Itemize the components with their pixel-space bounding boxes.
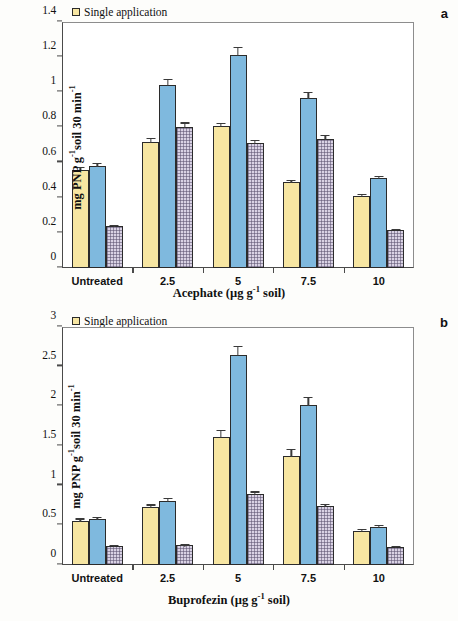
plot-area-b: 00.511.522.53 Untreated2.557.510 mg PNP …: [62, 327, 414, 565]
error-bar-cap: [251, 491, 260, 492]
y-tick-mark: [57, 365, 62, 366]
bar-group: [132, 22, 202, 268]
error-bar-cap: [321, 504, 330, 505]
y-tick-label: 1.2: [42, 39, 62, 51]
error-bar-cap: [374, 176, 383, 177]
bar: [159, 85, 176, 268]
error-bar-cap: [180, 122, 189, 123]
legend-label-single: Single application: [84, 5, 167, 20]
y-tick-label: 0.4: [42, 180, 62, 192]
bar-slot: [159, 22, 176, 268]
y-tick-label: 3: [50, 309, 62, 321]
error-bar: [254, 141, 255, 144]
error-bar: [150, 139, 151, 142]
error-bar: [184, 124, 185, 128]
bar-slot: [213, 327, 230, 565]
error-bar: [167, 499, 168, 501]
error-bar: [114, 226, 115, 227]
bar-group: [203, 327, 273, 565]
error-bar: [325, 136, 326, 140]
error-bar-cap: [234, 47, 243, 48]
bar: [387, 547, 404, 565]
y-tick-mark: [57, 444, 62, 445]
bar: [176, 545, 193, 565]
bar-group: [132, 327, 202, 565]
error-bar: [291, 450, 292, 456]
bar-slot: [247, 327, 264, 565]
y-tick-mark: [57, 231, 62, 232]
y-tick-label: 0.8: [42, 109, 62, 121]
error-bar-cap: [146, 504, 155, 505]
x-tick-mark: [344, 268, 345, 273]
y-tick-mark: [57, 161, 62, 162]
bar-slot: [370, 22, 387, 268]
error-bar-cap: [287, 180, 296, 181]
error-bar: [97, 518, 98, 520]
bar: [283, 182, 300, 268]
x-tick-mark: [203, 565, 204, 570]
x-tick-label: 10: [373, 572, 385, 584]
bar: [283, 456, 300, 565]
error-bar-cap: [180, 544, 189, 545]
bar: [247, 494, 264, 565]
y-tick-mark: [57, 91, 62, 92]
x-axis-title-text-a: Acephate (µg g-1 soil): [173, 286, 286, 301]
error-bar: [308, 93, 309, 98]
error-bar: [97, 164, 98, 167]
bar: [317, 139, 334, 268]
bar-slot: [317, 22, 334, 268]
y-axis-title-a: mg PNP g-1soil 30 min-1: [70, 25, 85, 271]
bar-slot: [283, 22, 300, 268]
bar-groups-a: [62, 22, 414, 268]
bar: [370, 178, 387, 268]
error-bar-cap: [163, 498, 172, 499]
legend-swatch-single-icon: [72, 8, 80, 16]
bar-slot: [247, 22, 264, 268]
y-tick-label: 0: [50, 250, 62, 262]
x-tick-label: 5: [235, 572, 241, 584]
bar: [387, 230, 404, 268]
error-bar: [237, 48, 238, 56]
bar: [247, 143, 264, 268]
error-bar: [291, 181, 292, 183]
bar-slot: [89, 22, 106, 268]
error-bar-cap: [146, 138, 155, 139]
error-bar: [114, 546, 115, 547]
chart-panel-b: Single application Two applications Thre…: [0, 310, 458, 621]
error-bar-cap: [391, 229, 400, 230]
error-bar: [184, 546, 185, 547]
error-bar: [395, 230, 396, 231]
legend-swatch-single-icon: [72, 317, 80, 325]
bar-slot: [142, 22, 159, 268]
error-bar: [150, 506, 151, 509]
error-bar-cap: [93, 517, 102, 518]
error-bar: [361, 195, 362, 197]
x-axis-title-a: Acephate (µg g-1 soil): [0, 286, 458, 301]
bar-slot: [89, 327, 106, 565]
y-axis-title-text-b: mg PNP g-1soil 30 min-1: [69, 384, 83, 509]
error-bar-cap: [110, 225, 119, 226]
bar: [353, 531, 370, 565]
y-tick-label: 0.5: [42, 507, 62, 519]
y-tick-label: 1: [50, 468, 62, 480]
bar-slot: [142, 327, 159, 565]
x-axis-title-b: Buprofezin (µg g-1 soil): [0, 593, 458, 608]
y-tick-mark: [57, 266, 62, 267]
error-bar-cap: [287, 449, 296, 450]
error-bar-cap: [304, 92, 313, 93]
error-bar: [378, 526, 379, 528]
error-bar-cap: [304, 397, 313, 398]
x-tick-label: Untreated: [72, 572, 123, 584]
error-bar-cap: [391, 546, 400, 547]
error-bar: [237, 347, 238, 355]
bar-slot: [387, 327, 404, 565]
bar-slot: [283, 327, 300, 565]
error-bar-cap: [357, 194, 366, 195]
error-bar-cap: [374, 525, 383, 526]
bar: [159, 501, 176, 565]
error-bar-cap: [321, 135, 330, 136]
y-tick-label: 0.2: [42, 215, 62, 227]
x-tick-mark: [344, 565, 345, 570]
bar-slot: [230, 327, 247, 565]
error-bar: [220, 431, 221, 438]
